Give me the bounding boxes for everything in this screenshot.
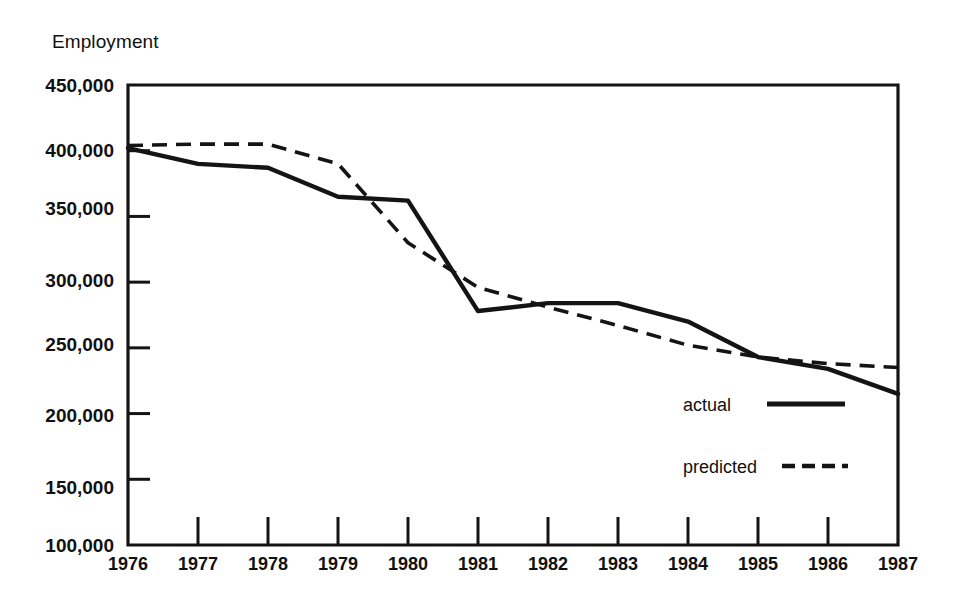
x-tick-label: 1982 <box>513 555 583 573</box>
x-tick-label: 1985 <box>723 555 793 573</box>
x-tick-label: 1981 <box>443 555 513 573</box>
axis-frame-path <box>128 85 898 545</box>
series-line-actual <box>128 148 898 394</box>
x-axis-ticks <box>198 517 828 545</box>
legend-label-predicted: predicted <box>683 458 757 476</box>
x-tick-label: 1978 <box>233 555 303 573</box>
x-tick-label: 1977 <box>163 555 233 573</box>
legend-label-actual: actual <box>683 396 731 414</box>
x-tick-label: 1976 <box>93 555 163 573</box>
axis-frame <box>128 85 898 545</box>
y-axis-ticks <box>128 151 150 480</box>
x-tick-label: 1984 <box>653 555 723 573</box>
x-tick-label: 1986 <box>793 555 863 573</box>
series-line-predicted <box>128 144 898 367</box>
x-tick-label: 1983 <box>583 555 653 573</box>
x-tick-label: 1987 <box>863 555 933 573</box>
employment-line-chart: Employment 450,000 400,000 350,000 300,0… <box>0 0 965 605</box>
x-tick-label: 1979 <box>303 555 373 573</box>
x-tick-label: 1980 <box>373 555 443 573</box>
plot-area <box>0 0 965 605</box>
